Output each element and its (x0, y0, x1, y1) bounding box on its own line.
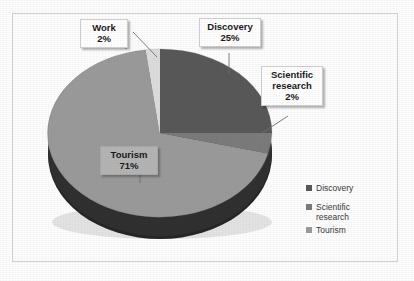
data-label-scientific-research-name2: research (266, 80, 318, 91)
data-label-scientific-research-value: 2% (266, 91, 318, 102)
pie-chart-image: Work 2% Discovery 25% Scientific researc… (0, 0, 414, 281)
data-label-discovery-value: 25% (204, 32, 256, 43)
data-label-scientific-research: Scientific research 2% (261, 66, 323, 106)
legend-swatch-tourism (306, 227, 312, 233)
data-label-work-name: Work (85, 22, 123, 33)
chart-legend: Discovery Scientific research Tourism (306, 183, 398, 243)
legend-swatch-scientific-research (306, 204, 312, 210)
legend-item-tourism: Tourism (306, 225, 398, 236)
legend-label-discovery: Discovery (316, 183, 353, 194)
legend-label-scientific-research: Scientific research (316, 202, 350, 223)
data-label-work: Work 2% (80, 19, 128, 48)
data-label-discovery: Discovery 25% (199, 18, 261, 47)
legend-label-tourism: Tourism (316, 225, 346, 236)
legend-item-discovery: Discovery (306, 183, 398, 194)
data-label-work-value: 2% (85, 33, 123, 44)
legend-item-scientific-research: Scientific research (306, 202, 398, 223)
data-label-tourism-value: 71% (105, 160, 153, 171)
data-label-scientific-research-name1: Scientific (266, 69, 318, 80)
pie-slices (47, 49, 272, 217)
data-label-discovery-name: Discovery (204, 21, 256, 32)
legend-swatch-discovery (306, 185, 312, 191)
data-label-tourism-name: Tourism (105, 149, 153, 160)
data-label-tourism: Tourism 71% (100, 146, 158, 175)
pie-slice-discovery (160, 49, 272, 133)
